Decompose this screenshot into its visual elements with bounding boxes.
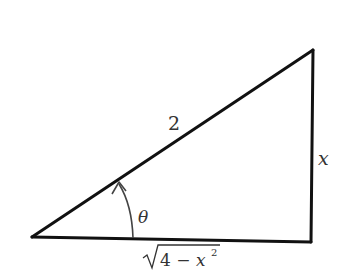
radicand-variable: x bbox=[196, 250, 206, 270]
adjacent-side bbox=[32, 237, 311, 242]
hypotenuse-label: 2 bbox=[168, 112, 180, 134]
radicand-text: 4 − bbox=[160, 250, 196, 270]
opposite-label: x bbox=[318, 147, 329, 169]
hypotenuse-side bbox=[32, 50, 313, 237]
radicand-label: 4 − x bbox=[160, 250, 206, 270]
triangle-diagram: θ 2 x 4 − x 2 bbox=[0, 0, 349, 279]
angle-arc bbox=[119, 184, 133, 238]
angle-label: θ bbox=[138, 207, 148, 227]
adjacent-label: 4 − x 2 bbox=[143, 245, 220, 270]
exponent-label: 2 bbox=[211, 247, 217, 258]
opposite-side bbox=[311, 50, 313, 242]
